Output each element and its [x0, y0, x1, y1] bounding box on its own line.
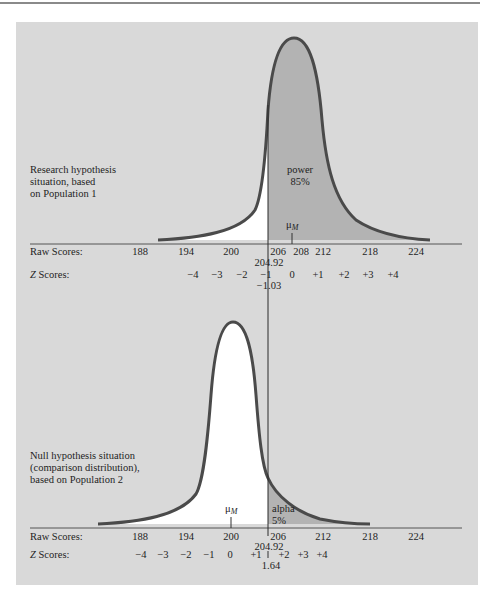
top-description-line-3: on Population 1 [30, 188, 116, 200]
top-raw-tick: 200 [223, 246, 239, 258]
bottom-z-scores-label: Z Scores: [30, 549, 69, 561]
top-z-tick: −2 [236, 269, 247, 281]
top-raw-tick: 208 [293, 246, 309, 258]
top-z-tick: +3 [362, 269, 373, 281]
bottom-z-tick: −1 [203, 549, 214, 561]
bottom-raw-tick: 212 [315, 531, 331, 543]
bottom-z-tick: +4 [316, 549, 327, 561]
top-raw-tick: 218 [362, 246, 378, 258]
top-description-line-1: Research hypothesis [30, 164, 116, 176]
bottom-z-tick: +1 [250, 549, 261, 561]
bottom-cutoff-z: 1.64 [262, 560, 280, 572]
bottom-raw-tick: 218 [362, 531, 378, 543]
bottom-z-tick: +3 [297, 549, 308, 561]
bottom-raw-tick: 188 [132, 531, 148, 543]
top-z-tick: 0 [289, 269, 294, 281]
top-mean-label: μM [286, 219, 298, 234]
bottom-description-line-2: (comparison distribution), [30, 462, 140, 474]
alpha-label: alpha 5% [272, 503, 295, 527]
bottom-raw-scores-label: Raw Scores: [30, 531, 83, 543]
top-cutoff-z: −1.03 [257, 280, 281, 292]
top-curve-unshaded-area [158, 110, 268, 240]
bottom-z-tick: −3 [157, 549, 168, 561]
bottom-description: Null hypothesis situation (comparison di… [30, 450, 140, 486]
bottom-curve-unshaded-area [98, 322, 268, 524]
alpha-label-value: 5% [272, 515, 295, 527]
top-description: Research hypothesis situation, based on … [30, 164, 116, 200]
top-z-tick: −4 [187, 269, 198, 281]
top-cutoff-raw: 204.92 [255, 257, 284, 269]
bottom-description-line-1: Null hypothesis situation [30, 450, 140, 462]
bottom-z-tick: 0 [227, 549, 232, 561]
top-z-tick: +2 [338, 269, 349, 281]
bottom-description-line-3: based on Population 2 [30, 474, 140, 486]
alpha-label-text: alpha [272, 503, 295, 515]
power-label-text: power [287, 164, 313, 176]
top-z-scores-label: Z Scores: [30, 269, 69, 281]
top-raw-tick: 194 [178, 246, 194, 258]
top-raw-tick: 212 [315, 246, 331, 258]
bottom-mean-label: μM [225, 503, 237, 518]
power-label: power 85% [287, 164, 313, 188]
top-raw-tick: 188 [132, 246, 148, 258]
bottom-z-tick: −4 [135, 549, 146, 561]
top-z-tick: +1 [312, 269, 323, 281]
bottom-z-tick: −2 [180, 549, 191, 561]
top-curve-power-area [268, 38, 430, 240]
bottom-raw-tick: 194 [178, 531, 194, 543]
top-z-tick: −3 [211, 269, 222, 281]
bottom-raw-tick: 200 [223, 531, 239, 543]
top-raw-tick: 224 [408, 246, 424, 258]
top-z-tick: +4 [387, 269, 398, 281]
power-label-value: 85% [287, 176, 313, 188]
top-raw-scores-label: Raw Scores: [30, 246, 83, 258]
distribution-diagram [0, 0, 493, 599]
top-description-line-2: situation, based [30, 176, 116, 188]
bottom-raw-tick: 224 [408, 531, 424, 543]
